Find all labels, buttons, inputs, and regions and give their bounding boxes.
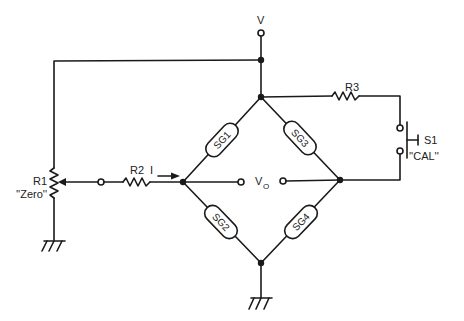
r1-note: ''Zero'' <box>16 188 47 200</box>
strain-gauge-sg3: SG3 <box>281 118 320 158</box>
ground-icon-bottom <box>249 263 272 309</box>
switch-note: ''CAL'' <box>409 150 439 162</box>
ground-icon <box>42 241 65 251</box>
circuit-diagram: V R1 ''Zero'' R2 I <box>0 0 464 321</box>
r3-label: R3 <box>345 81 359 93</box>
r2-label: R2 <box>130 164 144 176</box>
switch-label: S1 <box>424 134 437 146</box>
output-label: V <box>255 175 263 187</box>
strain-gauge-sg2: SG2 <box>201 202 240 242</box>
r1-label: R1 <box>33 175 47 187</box>
schematic: V R1 ''Zero'' R2 I <box>0 0 464 321</box>
zero-adjust-branch <box>50 60 261 240</box>
calibration-branch <box>261 92 403 180</box>
current-arrow-icon <box>158 173 180 180</box>
output-subscript: O <box>263 182 269 191</box>
r2-resistor <box>123 178 183 186</box>
strain-gauge-sg4: SG4 <box>281 202 320 242</box>
strain-gauge-sg1: SG1 <box>203 120 242 160</box>
supply-label: V <box>257 14 265 26</box>
current-label: I <box>150 164 153 176</box>
supply-terminal <box>258 30 264 100</box>
